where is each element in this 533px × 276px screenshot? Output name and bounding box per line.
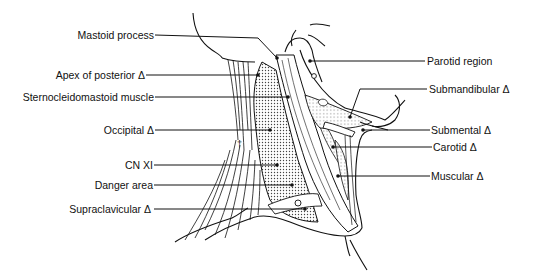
label-muscular-triangle: Muscular Δ <box>431 170 484 182</box>
label-carotid-triangle: Carotid Δ <box>433 141 477 153</box>
label-submandibular-triangle: Submandibular Δ <box>429 83 510 95</box>
neck-anatomy-diagram: † <box>0 0 533 276</box>
label-danger-area: Danger area <box>95 179 153 191</box>
neck-illustration: † <box>0 0 533 276</box>
label-sternocleidomastoid-muscle: Sternocleidomastoid muscle <box>23 91 154 103</box>
label-parotid-region: Parotid region <box>427 55 492 67</box>
label-mastoid-process: Mastoid process <box>78 29 154 41</box>
label-occipital-triangle: Occipital Δ <box>104 124 154 136</box>
label-apex-posterior-triangle: Apex of posterior Δ <box>56 69 145 81</box>
trapezius-fibers <box>185 60 260 240</box>
label-supraclavicular-triangle: Supraclavicular Δ <box>69 203 151 215</box>
label-cn-xi: CN XI <box>125 159 153 171</box>
dagger-mark: † <box>237 139 242 149</box>
label-submental-triangle: Submental Δ <box>431 124 491 136</box>
